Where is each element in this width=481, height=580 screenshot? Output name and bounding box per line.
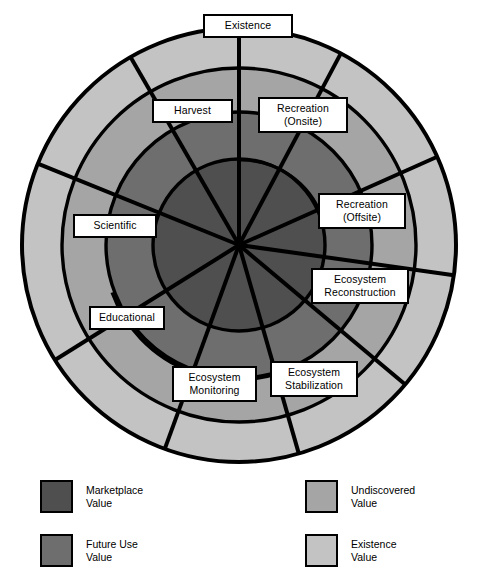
segment-label-line1: Scientific [93, 219, 136, 231]
legend-label-future-use: Future UseValue [86, 534, 138, 563]
segment-label-line1: Educational [99, 311, 155, 323]
legend-item-marketplace: MarketplaceValue [40, 480, 143, 513]
segment-label-line1: Harvest [174, 104, 211, 116]
segment-label-educational[interactable]: Educational [89, 306, 165, 330]
legend-swatch-marketplace [40, 480, 73, 513]
segment-label-line2: (Offsite) [326, 211, 398, 224]
segment-label-line1: Recreation [336, 198, 388, 210]
segment-label-recreation-onsite[interactable]: Recreation(Onsite) [258, 97, 348, 133]
segment-label-line1: Ecosystem [288, 366, 340, 378]
legend-swatch-undiscovered [305, 480, 338, 513]
legend-item-future-use: Future UseValue [40, 534, 138, 567]
legend-label-line2: Value [86, 497, 143, 510]
legend-label-line2: Value [351, 551, 397, 564]
legend-label-line1: Future Use [86, 538, 138, 551]
segment-label-line1: Ecosystem [334, 273, 386, 285]
segment-label-harvest[interactable]: Harvest [152, 99, 233, 123]
legend-label-line1: Marketplace [86, 484, 143, 497]
segment-label-ecosystem-stabilization[interactable]: EcosystemStabilization [270, 361, 358, 397]
segment-label-line2: Monitoring [180, 384, 249, 397]
diagram-canvas: ExistenceHarvestRecreation(Onsite)Recrea… [0, 0, 481, 580]
legend-label-line2: Value [351, 497, 415, 510]
legend-label-line2: Value [86, 551, 138, 564]
segment-label-existence[interactable]: Existence [203, 14, 293, 38]
segment-label-scientific[interactable]: Scientific [73, 214, 157, 238]
legend-label-undiscovered: UndiscoveredValue [351, 480, 415, 509]
segment-label-line1: Existence [225, 19, 271, 31]
legend-label-line1: Existence [351, 538, 397, 551]
legend-swatch-existence [305, 534, 338, 567]
legend-label-line1: Undiscovered [351, 484, 415, 497]
legend-swatch-future-use [40, 534, 73, 567]
segment-label-line2: Stabilization [278, 379, 350, 392]
segment-label-ecosystem-monitoring[interactable]: EcosystemMonitoring [172, 366, 257, 402]
segment-label-line1: Recreation [277, 102, 329, 114]
legend-item-undiscovered: UndiscoveredValue [305, 480, 415, 513]
segment-label-ecosystem-reconstruction[interactable]: EcosystemReconstruction [311, 268, 409, 304]
segment-label-recreation-offsite[interactable]: Recreation(Offsite) [318, 193, 406, 229]
legend: MarketplaceValueFuture UseValueUndiscove… [0, 472, 481, 580]
segment-label-line1: Ecosystem [188, 371, 240, 383]
legend-label-marketplace: MarketplaceValue [86, 480, 143, 509]
segment-label-line2: Reconstruction [319, 286, 401, 299]
legend-item-existence: ExistenceValue [305, 534, 397, 567]
legend-label-existence: ExistenceValue [351, 534, 397, 563]
segment-label-line2: (Onsite) [266, 115, 340, 128]
